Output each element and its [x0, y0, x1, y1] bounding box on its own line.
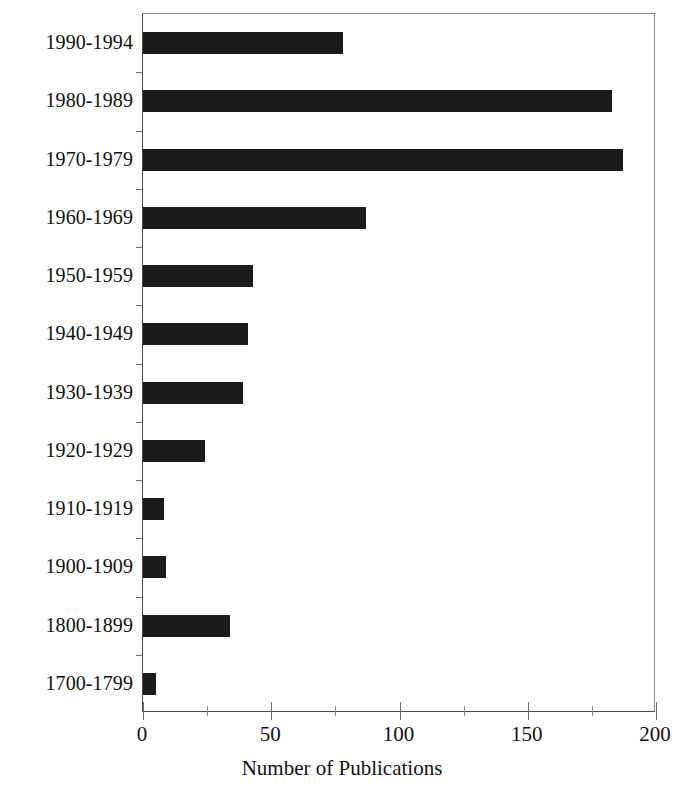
- y-axis-tick: [136, 131, 143, 132]
- x-axis-minor-tick: [592, 706, 593, 716]
- x-axis-tick-label: 100: [383, 722, 415, 746]
- y-axis-tick: [136, 655, 143, 656]
- y-axis-category-label: 1950-1959: [0, 265, 133, 285]
- x-axis-tick-label: 150: [511, 722, 543, 746]
- y-axis-category-label: 1960-1969: [0, 207, 133, 227]
- bar-chart: 1990-19941980-19891970-19791960-19691950…: [0, 0, 684, 797]
- x-axis-tick-labels: 050100150200: [142, 722, 655, 752]
- x-axis-tick: [143, 702, 144, 720]
- y-axis-category-label: 1970-1979: [0, 149, 133, 169]
- y-axis-tick: [136, 305, 143, 306]
- x-axis-minor-tick: [335, 706, 336, 716]
- y-axis-category-label: 1800-1899: [0, 615, 133, 635]
- y-axis-tick: [136, 189, 143, 190]
- bars-layer: [143, 14, 654, 711]
- bar: [143, 615, 230, 637]
- bar: [143, 323, 248, 345]
- x-axis-tick: [271, 702, 272, 720]
- y-axis-category-label: 1700-1799: [0, 673, 133, 693]
- y-axis-category-label: 1900-1909: [0, 556, 133, 576]
- bar: [143, 382, 243, 404]
- x-axis-tick: [400, 702, 401, 720]
- y-axis-category-label: 1990-1994: [0, 32, 133, 52]
- y-axis-category-labels: 1990-19941980-19891970-19791960-19691950…: [0, 0, 133, 797]
- y-axis-category-label: 1940-1949: [0, 323, 133, 343]
- y-axis-category-label: 1910-1919: [0, 498, 133, 518]
- x-axis-tick: [656, 702, 657, 720]
- x-axis-minor-tick: [207, 706, 208, 716]
- x-axis-tick: [528, 702, 529, 720]
- y-axis-category-label: 1930-1939: [0, 382, 133, 402]
- x-axis-tick-label: 0: [137, 722, 148, 746]
- x-axis-tick-label: 50: [260, 722, 281, 746]
- bar: [143, 207, 366, 229]
- bar: [143, 90, 612, 112]
- bar: [143, 32, 343, 54]
- y-axis-tick: [136, 247, 143, 248]
- bar: [143, 498, 164, 520]
- bar: [143, 556, 166, 578]
- y-axis-tick: [136, 538, 143, 539]
- x-axis-minor-tick: [464, 706, 465, 716]
- y-axis-tick: [136, 72, 143, 73]
- x-axis-title: Number of Publications: [0, 756, 684, 780]
- bar: [143, 265, 253, 287]
- bar: [143, 440, 205, 462]
- bar: [143, 673, 156, 695]
- y-axis-tick: [136, 422, 143, 423]
- x-axis-tick-label: 200: [639, 722, 671, 746]
- y-axis-category-label: 1980-1989: [0, 90, 133, 110]
- bar: [143, 149, 623, 171]
- y-axis-tick: [136, 364, 143, 365]
- y-axis-tick: [136, 597, 143, 598]
- y-axis-tick: [136, 480, 143, 481]
- y-axis-category-label: 1920-1929: [0, 440, 133, 460]
- plot-area: [142, 13, 655, 712]
